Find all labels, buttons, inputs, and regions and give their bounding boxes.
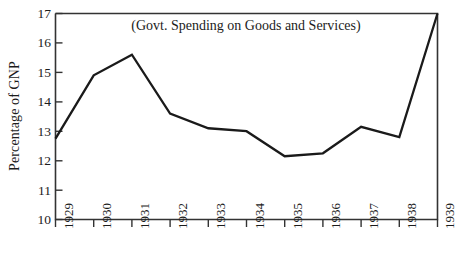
x-tick-label-1933: 1933	[214, 185, 228, 229]
x-tick-label-1934: 1934	[253, 185, 267, 229]
x-tick-label-1930: 1930	[100, 185, 114, 229]
x-tick-label-1937: 1937	[367, 185, 381, 229]
x-tick-label-1932: 1932	[176, 185, 190, 229]
x-tick-label-1929: 1929	[62, 185, 76, 229]
x-tick-label-1935: 1935	[291, 185, 305, 229]
x-tick-label-1931: 1931	[138, 185, 152, 229]
x-tick-label-1936: 1936	[329, 185, 343, 229]
data-series-line	[56, 14, 438, 157]
x-tick-label-1939: 1939	[443, 185, 455, 229]
chart-container: Percentage of GNP 17 16 15 14 13 12 11 1…	[0, 0, 455, 264]
x-tick-label-1938: 1938	[405, 185, 419, 229]
